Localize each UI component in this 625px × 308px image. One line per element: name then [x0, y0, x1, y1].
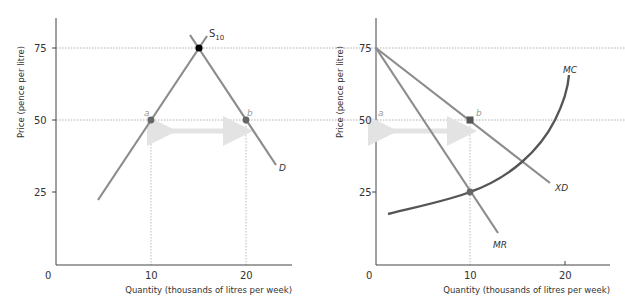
- ytick-75-right: 75: [359, 43, 372, 54]
- xtick-10-right: 10: [464, 270, 477, 281]
- origin-label-right: 0: [366, 270, 372, 281]
- ytick-50: 50: [34, 115, 47, 126]
- mr-curve: [376, 48, 498, 233]
- point-b-right-label: b: [476, 108, 482, 118]
- y-axis-title: Price (pence per litre): [16, 46, 26, 138]
- origin-label: 0: [45, 270, 51, 281]
- ytick-25-right: 25: [359, 187, 372, 198]
- point-a-right-label: a: [378, 108, 384, 118]
- equilibrium-point: [195, 44, 202, 51]
- xtick-20-right: 20: [559, 270, 572, 281]
- ytick-25: 25: [34, 187, 47, 198]
- point-b-right: [467, 117, 474, 124]
- x-axis-title: Quantity (thousands of litres per week): [125, 285, 292, 295]
- point-a-label: a: [144, 108, 150, 118]
- ytick-50-right: 50: [359, 115, 372, 126]
- mc-curve: [388, 75, 569, 214]
- demand-label: D: [279, 163, 286, 173]
- xtick-20: 20: [240, 270, 253, 281]
- mr-mc-intersection: [467, 189, 474, 196]
- y-axis-title-right: Price (pence per litre): [335, 46, 345, 138]
- xd-curve: [376, 48, 550, 183]
- mc-label: MC: [563, 65, 578, 75]
- xtick-10: 10: [145, 270, 158, 281]
- right-chart: a b MC XD MR 75 50 25 0 10 20 Quantity (…: [335, 18, 610, 295]
- point-b-label: b: [247, 108, 253, 118]
- demand-curve: [190, 35, 276, 165]
- mr-label: MR: [493, 240, 507, 250]
- supply-label: S10: [209, 28, 224, 42]
- chart-canvas: a b S10 D 75 50 25 0 10 20 Quantity (tho…: [0, 0, 625, 308]
- left-chart: a b S10 D 75 50 25 0 10 20 Quantity (tho…: [16, 18, 625, 295]
- ytick-75: 75: [34, 43, 47, 54]
- xd-label: XD: [554, 183, 568, 193]
- x-axis-title-right: Quantity (thousands of litres per week): [443, 285, 610, 295]
